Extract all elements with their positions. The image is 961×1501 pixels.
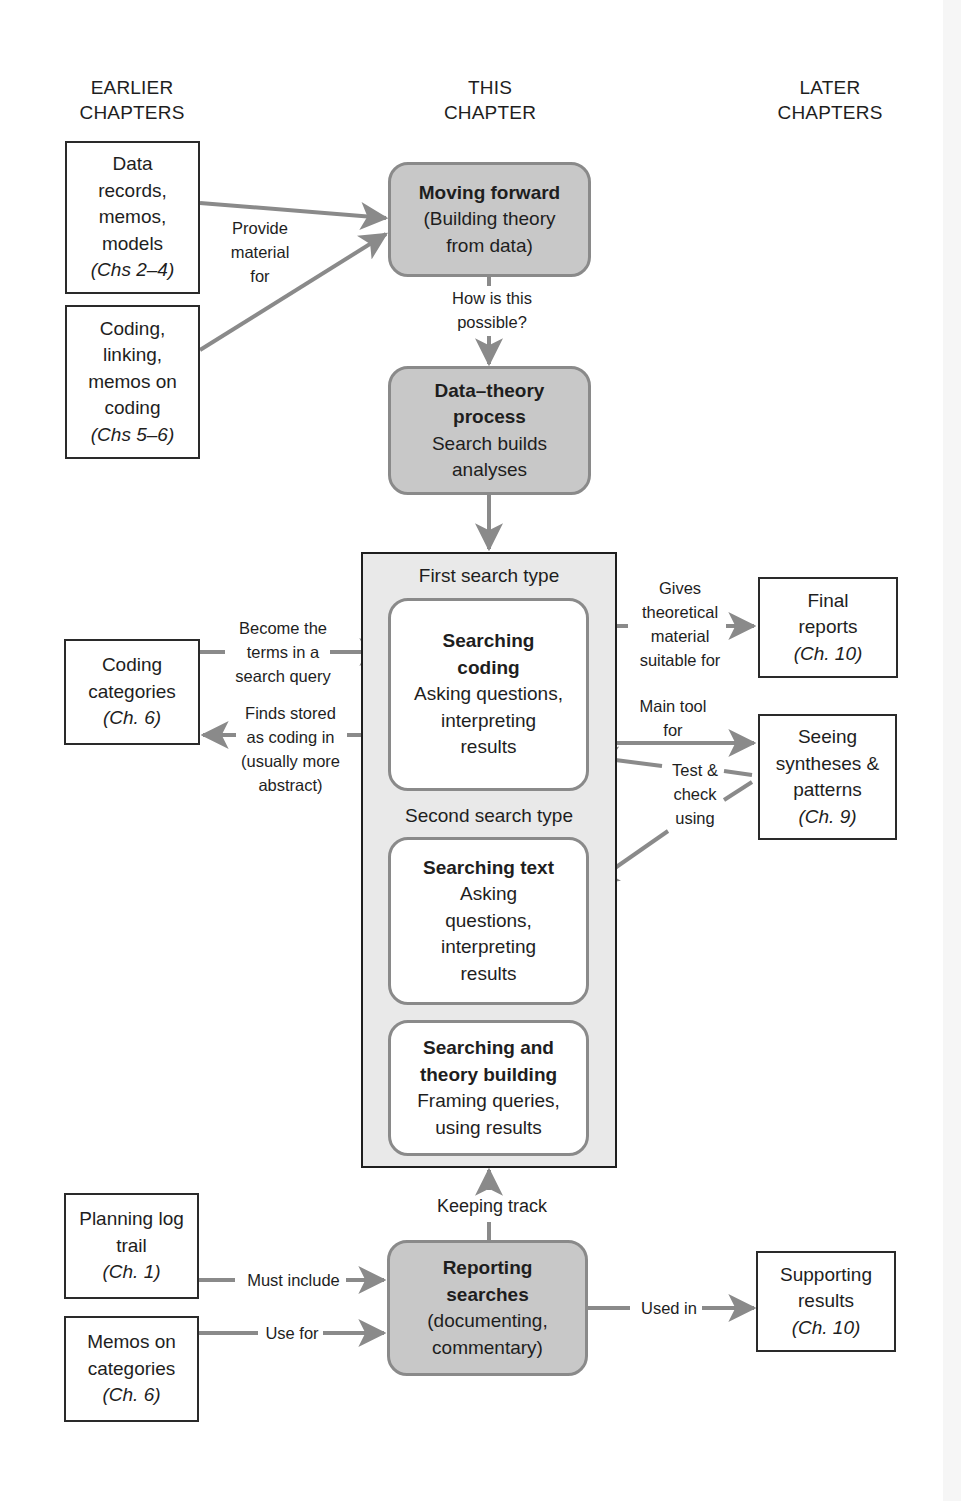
header-later-chapters: LATER CHAPTERS — [760, 75, 900, 125]
box-supporting-results: Supporting results (Ch. 10) — [756, 1251, 896, 1352]
first-search-type-label: First search type — [361, 564, 617, 588]
label-become-terms: Become the terms in a search query — [220, 616, 346, 688]
label-how-possible: How is this possible? — [429, 286, 555, 334]
box-moving-forward: Moving forward (Building theory from dat… — [388, 162, 591, 277]
header-this-chapter: THIS CHAPTER — [420, 75, 560, 125]
label-main-tool: Main tool for — [625, 694, 721, 742]
box-searching-text: Searching text Asking questions, interpr… — [388, 837, 589, 1005]
label-test-check: Test & check using — [657, 758, 733, 830]
box-searching-coding: Searching coding Asking questions, inter… — [388, 598, 589, 791]
box-memos-on-categories: Memos on categories (Ch. 6) — [64, 1316, 199, 1422]
label-keeping-track: Keeping track — [414, 1194, 570, 1218]
box-seeing-syntheses: Seeing syntheses & patterns (Ch. 9) — [758, 714, 897, 840]
label-finds-stored: Finds stored as coding in (usually more … — [230, 701, 351, 797]
box-data-records: Data records, memos, models (Chs 2–4) — [65, 141, 200, 294]
box-reporting-searches: Reporting searches (documenting, comment… — [387, 1240, 588, 1376]
box-final-reports: Final reports (Ch. 10) — [758, 577, 898, 678]
label-provide-material: Provide material for — [212, 216, 308, 288]
box-data-theory-process: Data–theory process Search builds analys… — [388, 366, 591, 495]
label-gives-theoretical: Gives theoretical material suitable for — [622, 576, 738, 672]
box-coding-linking: Coding, linking, memos on coding (Chs 5–… — [65, 305, 200, 459]
header-earlier-chapters: EARLIER CHAPTERS — [62, 75, 202, 125]
label-must-include: Must include — [233, 1268, 354, 1292]
second-search-type-label: Second search type — [361, 804, 617, 828]
label-use-for: Use for — [254, 1321, 330, 1345]
box-planning-log: Planning log trail (Ch. 1) — [64, 1193, 199, 1299]
box-searching-theory-building: Searching and theory building Framing qu… — [388, 1020, 589, 1156]
box-coding-categories: Coding categories (Ch. 6) — [64, 639, 200, 745]
label-used-in: Used in — [627, 1296, 711, 1320]
